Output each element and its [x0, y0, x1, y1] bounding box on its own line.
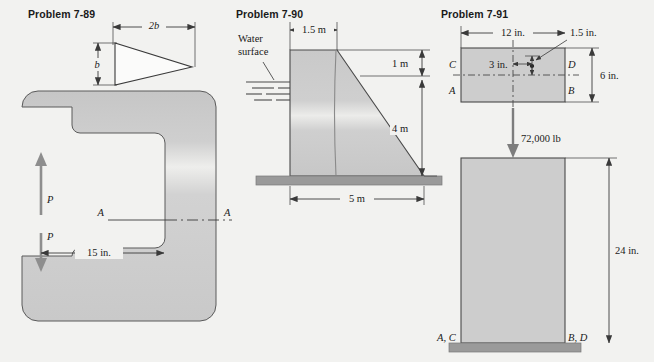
base-label-right: B, D [568, 332, 588, 343]
triangle-shape [115, 43, 192, 85]
water-surface-marks [246, 82, 290, 100]
load-arrow-head [507, 144, 519, 158]
clamp-outline [22, 91, 216, 321]
applied-load-label: 72,000 lb [521, 133, 561, 144]
top-view-offset-label: 3 in. [489, 59, 508, 70]
top-view-depth-label: 6 in. [600, 70, 619, 81]
force-p-upper-head [35, 152, 47, 166]
force-p-upper-label: P [46, 194, 54, 205]
force-p-lower-label: P [46, 231, 54, 242]
dam-upper-height-label: 1 m [392, 58, 408, 69]
triangle-detail: 2b b [90, 19, 195, 85]
problem-7-91-panel: Problem 7-91 [437, 0, 654, 362]
applied-load-arrow: 72,000 lb [507, 108, 561, 158]
elevation-height-label: 24 in. [615, 245, 639, 256]
water-surface-label-line2: surface [238, 46, 269, 57]
dam-base-width-dimension: 5 m [290, 186, 424, 205]
dam-top-width-dimension: 1.5 m [290, 22, 337, 50]
problem-7-89-panel: Problem 7-89 [0, 0, 232, 362]
water-surface-label-line1: Water [238, 33, 263, 44]
dam-top-width-label: 1.5 m [302, 24, 326, 35]
corner-label-a: A [448, 85, 456, 96]
dam-base-width-label: 5 m [349, 193, 365, 204]
force-p-upper: P [35, 152, 54, 215]
problem-7-91-figure: 12 in. 1.5 in. 3 in. 6 in. [437, 0, 654, 362]
dam-lower-height-label: 4 m [392, 123, 408, 134]
figure-sheet: Problem 7-89 [0, 0, 654, 362]
base-label-left: A, C [436, 332, 457, 343]
eccentricity-label: 1.5 in. [570, 27, 597, 38]
top-view-width-label: 12 in. [501, 27, 525, 38]
clamp-span-label: 15 in. [87, 247, 111, 258]
corner-label-b: B [568, 85, 575, 96]
elevation-ground-bar [449, 343, 581, 352]
section-label-left: A [97, 207, 105, 218]
problem-7-90-figure: Water surface 1.5 m 1 m 4 m [232, 0, 437, 362]
ground-bar [256, 176, 442, 185]
c-clamp-body [22, 91, 216, 321]
elevation-view-rectangle [461, 158, 565, 343]
problem-7-90-panel: Problem 7-90 [232, 0, 437, 362]
problem-7-89-figure: 2b b P P [0, 0, 232, 362]
corner-label-d: D [567, 59, 576, 70]
water-surface-leader [263, 62, 274, 80]
triangle-width-label: 2b [149, 20, 160, 31]
elevation-height-dimension: 24 in. [565, 158, 653, 343]
triangle-height-label: b [94, 59, 99, 70]
corner-label-c: C [449, 59, 457, 70]
